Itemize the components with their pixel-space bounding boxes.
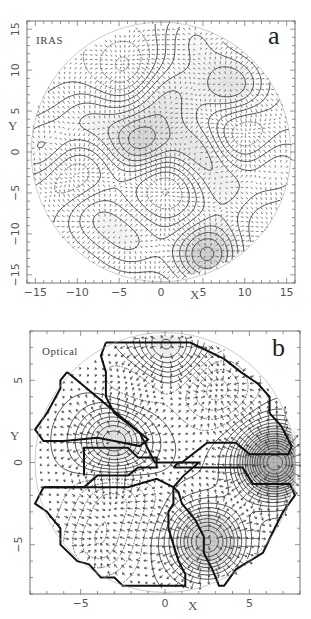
y-tick-label: 10 [9,63,22,77]
y-tick-label: −5 [9,185,22,201]
panel-b-ylabel: Y [10,428,20,443]
y-tick-label: 0 [9,149,22,156]
x-tick-label: 15 [280,286,294,299]
panel-a-plot: −15−10−5051015−15−10−5051015 IRAS a X Y [0,0,311,310]
x-tick-label: 10 [238,286,252,299]
x-tick-label: 0 [162,597,169,610]
panel-a-tag: IRAS [36,34,63,46]
y-tick-label: 5 [9,108,22,115]
x-tick-label: −5 [73,597,89,610]
panel-b-plot: −505−505 Optical b X Y [0,310,311,619]
panel-b-letter: b [272,333,285,362]
y-tick-label: 5 [12,377,25,384]
panel-a-xlabel: X [190,287,200,302]
x-tick-label: 0 [158,286,165,299]
x-tick-label: −5 [111,286,127,299]
y-tick-label: 15 [9,22,22,36]
x-tick-label: 5 [246,597,253,610]
y-tick-label: −15 [9,263,22,286]
panel-a-letter: a [268,21,280,50]
x-tick-label: −15 [24,286,47,299]
panel-a-ylabel: Y [8,118,18,133]
panel-b-optical: −505−505 Optical b X Y [0,310,311,619]
panel-b-xlabel: X [188,598,198,613]
panel-b-tag: Optical [42,345,78,357]
panel-a-iras: −15−10−5051015−15−10−5051015 IRAS a X Y [0,0,311,310]
y-tick-label: −10 [9,222,22,245]
y-tick-label: −5 [12,537,25,553]
y-tick-label: 0 [12,459,25,466]
x-tick-label: −10 [66,286,89,299]
x-tick-label: 5 [199,286,206,299]
